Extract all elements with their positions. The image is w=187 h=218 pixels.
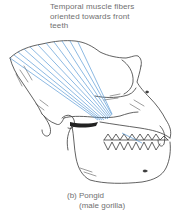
gorilla-skull-illustration bbox=[0, 0, 187, 218]
figure-caption: (b) Pongid (male gorilla) bbox=[67, 191, 125, 211]
muscle-fibers bbox=[10, 41, 142, 143]
caption-subtitle: (male gorilla) bbox=[67, 201, 125, 211]
caption-title: Pongid bbox=[79, 191, 104, 200]
caption-letter: (b) bbox=[67, 191, 77, 200]
